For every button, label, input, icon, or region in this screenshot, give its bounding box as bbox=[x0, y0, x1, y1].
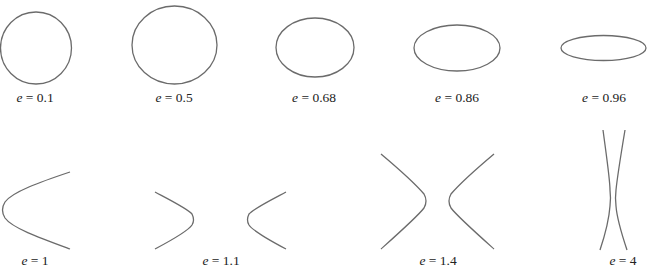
ellipse-shape bbox=[276, 18, 354, 77]
conic-e-0.5: e = 0.5 bbox=[132, 6, 217, 105]
conic-e-1.4: e = 1.4 bbox=[381, 154, 494, 267]
hyperbola-left-branch bbox=[600, 130, 611, 250]
hyperbola-right-branch bbox=[449, 154, 494, 249]
eccentricity-label: e = 0.5 bbox=[155, 90, 193, 105]
eccentricity-label: e = 0.68 bbox=[292, 90, 336, 105]
eccentricity-label: e = 1.1 bbox=[202, 253, 239, 267]
conic-e-1.1: e = 1.1 bbox=[155, 192, 286, 267]
conic-e-0.86: e = 0.86 bbox=[414, 25, 500, 105]
eccentricity-label: e = 1 bbox=[21, 253, 48, 267]
hyperbola-right-branch bbox=[248, 192, 287, 249]
hyperbola-right-branch bbox=[616, 130, 628, 250]
conic-e-0.68: e = 0.68 bbox=[276, 18, 354, 105]
eccentricity-label: e = 0.96 bbox=[582, 90, 626, 105]
ellipse-shape bbox=[561, 36, 646, 61]
conic-e-0.1: e = 0.1 bbox=[1, 12, 72, 105]
conic-e-4: e = 4 bbox=[600, 130, 637, 267]
ellipse-shape bbox=[414, 25, 500, 71]
conic-e-1: e = 1 bbox=[3, 172, 71, 267]
conic-sections-figure: e = 0.1 e = 0.5 e = 0.68 e = 0.86 e = 0.… bbox=[0, 0, 647, 267]
eccentricity-label: e = 4 bbox=[609, 253, 636, 267]
conic-e-0.96: e = 0.96 bbox=[561, 36, 646, 106]
circle-shape bbox=[1, 12, 72, 84]
hyperbola-left-branch bbox=[381, 154, 426, 249]
parabola-shape bbox=[3, 172, 71, 249]
ellipse-shape bbox=[132, 6, 217, 84]
eccentricity-label: e = 0.1 bbox=[16, 90, 53, 105]
hyperbola-left-branch bbox=[155, 192, 194, 249]
eccentricity-label: e = 1.4 bbox=[419, 253, 457, 267]
eccentricity-label: e = 0.86 bbox=[435, 90, 479, 105]
